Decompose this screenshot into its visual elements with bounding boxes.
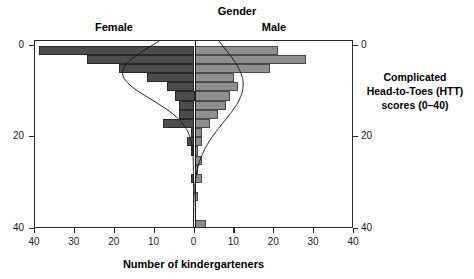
x-tick-5: [233, 228, 234, 233]
x-tick-8: [353, 228, 354, 233]
y-tick-left-20: [29, 136, 34, 137]
panel-label-female: Female: [34, 21, 194, 33]
y-tick-label-left-40: 0: [0, 39, 24, 50]
x-tick-3: [154, 228, 155, 233]
chart-figure: Gender Female Male 40200 40200 403020100…: [0, 0, 474, 279]
x-tick-label-8: 40: [338, 236, 368, 247]
center-axis-line: [195, 41, 196, 227]
y-axis-title-line-3: scores (0–40): [358, 98, 472, 112]
x-tick-label-7: 30: [298, 236, 328, 247]
y-tick-label-right-20: 20: [361, 130, 385, 141]
plot-inner: [35, 41, 352, 227]
x-axis-title: Number of kindergarteners: [34, 258, 353, 270]
y-axis-title-line-1: Complicated: [358, 70, 472, 84]
y-tick-right-40: [353, 45, 358, 46]
y-tick-label-left-0: 40: [0, 222, 24, 233]
x-tick-1: [74, 228, 75, 233]
x-tick-7: [313, 228, 314, 233]
density-curve-female: [123, 41, 194, 227]
y-axis-title-line-2: Head-to-Toes (HTT): [358, 84, 472, 98]
density-curve-male: [194, 41, 244, 227]
y-axis-title: Complicated Head-to-Toes (HTT) scores (0…: [358, 70, 472, 113]
density-curves: [35, 41, 352, 227]
y-tick-label-left-20: 20: [0, 130, 24, 141]
x-tick-6: [273, 228, 274, 233]
x-tick-label-1: 30: [59, 236, 89, 247]
x-tick-2: [114, 228, 115, 233]
x-tick-0: [34, 228, 35, 233]
y-tick-label-right-40: 0: [361, 39, 385, 50]
x-tick-4: [194, 228, 195, 233]
x-tick-label-0: 40: [19, 236, 49, 247]
x-tick-label-2: 20: [99, 236, 129, 247]
plot-area: [34, 40, 353, 228]
chart-title-gender: Gender: [0, 5, 474, 17]
x-tick-label-3: 10: [139, 236, 169, 247]
panel-label-male: Male: [194, 21, 354, 33]
y-tick-left-40: [29, 45, 34, 46]
y-tick-label-right-0: 40: [361, 222, 385, 233]
y-tick-right-20: [353, 136, 358, 137]
x-tick-label-4: 0: [179, 236, 209, 247]
x-tick-label-5: 10: [218, 236, 248, 247]
x-tick-label-6: 20: [258, 236, 288, 247]
